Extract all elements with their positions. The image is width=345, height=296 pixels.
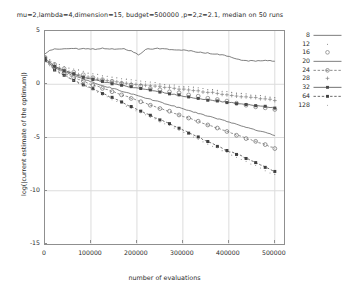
- legend-item-64[interactable]: 64: [294, 92, 345, 101]
- legend-item-128[interactable]: 128: [294, 101, 345, 110]
- x-tick-mark: [136, 240, 137, 243]
- plot-area: [44, 30, 285, 245]
- legend-item-8[interactable]: 8: [294, 31, 345, 40]
- x-tick-label: 500000: [254, 249, 294, 256]
- legend-swatch-32: [312, 83, 343, 92]
- legend-label: 8: [294, 31, 310, 40]
- legend-item-28[interactable]: 28: [294, 74, 345, 83]
- y-tick-label: 5: [18, 26, 40, 33]
- legend-swatch-28: [312, 74, 343, 83]
- y-tick-mark: [44, 137, 47, 138]
- y-tick-label: -15: [18, 239, 40, 246]
- series-20: [45, 60, 275, 135]
- legend-swatch-8: [312, 31, 343, 40]
- chart-legend: 812162024283264128: [294, 31, 345, 109]
- x-tick-mark: [228, 240, 229, 243]
- series-128: [45, 61, 275, 175]
- legend-item-20[interactable]: 20: [294, 57, 345, 66]
- legend-swatch-24: [312, 66, 343, 75]
- x-axis-title: number of evaluations: [44, 274, 285, 282]
- chart-title: mu=2,lambda=4,dimension=15, budget=50000…: [0, 11, 300, 19]
- x-tick-mark: [90, 240, 91, 243]
- legend-item-12[interactable]: 12: [294, 40, 345, 49]
- legend-swatch-64: [312, 92, 343, 101]
- x-tick-label: 0: [24, 249, 64, 256]
- legend-swatch-20: [312, 57, 343, 66]
- y-tick-mark: [44, 83, 47, 84]
- legend-swatch-128: [312, 101, 343, 110]
- legend-label: 24: [294, 66, 310, 75]
- legend-label: 128: [294, 101, 310, 110]
- series-8: [45, 48, 275, 61]
- legend-label: 20: [294, 57, 310, 66]
- y-tick-mark: [44, 30, 47, 31]
- legend-label: 28: [294, 74, 310, 83]
- x-tick-label: 400000: [208, 249, 248, 256]
- plot-svg: [45, 31, 284, 244]
- x-tick-label: 200000: [116, 249, 156, 256]
- legend-swatch-12: [312, 40, 343, 49]
- legend-item-24[interactable]: 24: [294, 66, 345, 75]
- x-tick-label: 300000: [162, 249, 202, 256]
- legend-label: 64: [294, 92, 310, 101]
- legend-item-16[interactable]: 16: [294, 48, 345, 57]
- chart-container: mu=2,lambda=4,dimension=15, budget=50000…: [0, 0, 345, 296]
- legend-label: 32: [294, 83, 310, 92]
- y-tick-mark: [44, 190, 47, 191]
- legend-label: 12: [294, 40, 310, 49]
- legend-item-32[interactable]: 32: [294, 83, 345, 92]
- legend-label: 16: [294, 48, 310, 57]
- x-tick-mark: [274, 240, 275, 243]
- x-tick-mark: [44, 240, 45, 243]
- legend-swatch-16: [312, 48, 343, 57]
- series-16: [45, 55, 277, 111]
- y-axis-title: log(|current estimate of the optimum|): [20, 54, 28, 214]
- x-tick-label: 100000: [70, 249, 110, 256]
- y-tick-mark: [44, 243, 47, 244]
- x-tick-mark: [182, 240, 183, 243]
